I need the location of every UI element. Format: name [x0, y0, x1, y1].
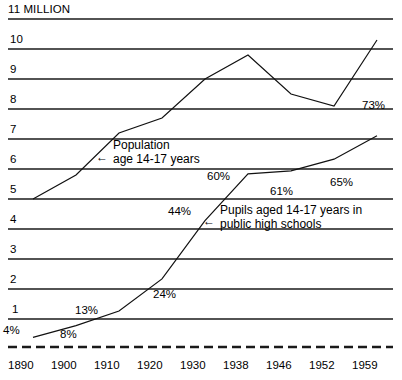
data-label-pupils-1946: 61% — [270, 186, 293, 198]
data-label-pupils-1938: 60% — [207, 171, 230, 183]
x-axis-label-1930: 1930 — [180, 360, 206, 372]
x-axis-label-1946: 1946 — [266, 360, 292, 372]
data-label-pupils-1930: 44% — [168, 206, 191, 218]
data-label-pupils-1959: 73% — [362, 100, 385, 112]
y-axis-label-10: 10 — [10, 34, 23, 46]
population-annotation-arrow-icon: ← — [96, 151, 108, 163]
x-axis-label-1890: 1890 — [8, 360, 34, 372]
chart-container: 11 MILLION 10 9 8 7 6 5 4 3 2 1 1890 190… — [0, 0, 402, 380]
data-label-pupils-1920: 24% — [153, 289, 176, 301]
y-axis-label-2: 2 — [10, 274, 16, 286]
pupils-annotation-line1: Pupils aged 14-17 years in — [220, 204, 362, 218]
data-label-pupils-1952: 65% — [330, 177, 353, 189]
pupils-annotation-arrow-icon: ← — [203, 215, 215, 227]
population-annotation-line1: Population — [113, 139, 170, 153]
y-axis-label-9: 9 — [10, 64, 16, 76]
y-axis-label-11-million: 11 MILLION — [8, 4, 70, 16]
series-line-population — [33, 40, 377, 199]
y-axis-label-8: 8 — [10, 94, 16, 106]
x-axis-label-1910: 1910 — [94, 360, 120, 372]
pupils-annotation-line2: public high schools — [220, 218, 321, 232]
chart-plot-area — [0, 0, 402, 380]
y-axis-label-6: 6 — [10, 154, 16, 166]
data-label-pupils-1890: 4% — [3, 325, 20, 337]
y-axis-label-7: 7 — [10, 124, 16, 136]
y-axis-label-3: 3 — [10, 244, 16, 256]
y-axis-label-1: 1 — [12, 304, 18, 316]
data-label-pupils-1900: 8% — [60, 329, 77, 341]
y-axis-label-4: 4 — [10, 214, 16, 226]
y-axis-label-5: 5 — [10, 184, 16, 196]
gridlines — [8, 19, 393, 319]
x-axis-label-1900: 1900 — [51, 360, 77, 372]
x-axis-label-1952: 1952 — [309, 360, 335, 372]
x-axis-label-1959: 1959 — [352, 360, 378, 372]
population-annotation-line2: age 14-17 years — [113, 153, 200, 167]
data-label-pupils-1910: 13% — [75, 305, 98, 317]
x-axis-label-1938: 1938 — [223, 360, 249, 372]
x-axis-label-1920: 1920 — [137, 360, 163, 372]
